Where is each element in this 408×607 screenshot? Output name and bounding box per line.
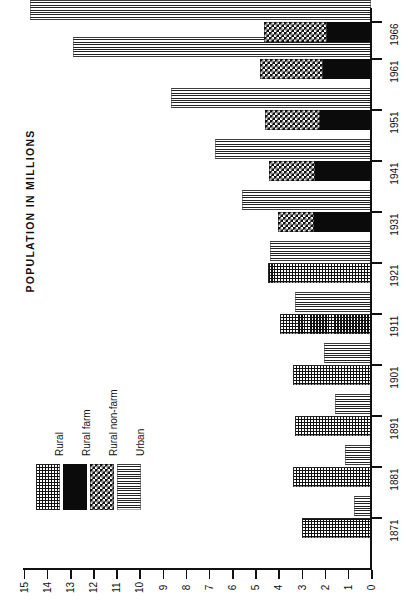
bar-rural-nonfarm-1931 — [278, 212, 314, 232]
bar-rural-farm-1961 — [323, 59, 371, 79]
bar-rural-farm-1931 — [314, 212, 371, 232]
bar-rural-1881 — [293, 467, 371, 487]
value-tick-label-1: 1 — [342, 577, 353, 599]
value-tick-label-0: 0 — [366, 577, 377, 599]
bar-rural-nonfarm-1941 — [269, 161, 315, 181]
category-label-1931: 1931 — [389, 205, 400, 245]
category-tick-1921 — [372, 262, 382, 264]
bar-urban-1951 — [171, 88, 371, 108]
legend-swatch-rural — [36, 464, 60, 510]
category-tick-1961 — [372, 58, 382, 60]
value-tick-label-11: 11 — [111, 577, 122, 599]
value-tick-label-6: 6 — [227, 577, 238, 599]
value-tick-label-7: 7 — [203, 577, 214, 599]
legend-label-rural-farm: Rural farm — [81, 409, 92, 456]
value-axis-line — [23, 568, 372, 570]
category-label-1891: 1891 — [389, 409, 400, 449]
bar-rural-1901 — [293, 365, 371, 385]
bar-rural-farm-1941 — [315, 161, 371, 181]
category-tick-1881 — [372, 466, 382, 468]
bar-rural-1911 — [280, 314, 371, 334]
bar-urban-1931 — [242, 190, 371, 210]
value-tick-label-8: 8 — [180, 577, 191, 599]
category-label-1966: 1966 — [389, 15, 400, 55]
legend: RuralRural farmRural non-farmUrban — [36, 372, 146, 517]
category-label-1961: 1961 — [389, 52, 400, 92]
legend-swatch-urban — [117, 464, 141, 510]
value-tick-label-14: 14 — [41, 577, 52, 599]
legend-swatch-rural-non-farm — [90, 464, 114, 510]
bar-rural-nonfarm-1966 — [264, 22, 327, 42]
value-tick-label-5: 5 — [250, 577, 261, 599]
value-tick-label-10: 10 — [134, 577, 145, 599]
category-axis-line — [370, 8, 372, 569]
bar-rural-nonfarm-1961 — [260, 59, 323, 79]
value-tick-label-2: 2 — [319, 577, 330, 599]
bar-rural-1891 — [295, 416, 371, 436]
category-label-1941: 1941 — [389, 154, 400, 194]
bar-urban-1891 — [335, 394, 371, 414]
value-tick-label-12: 12 — [88, 577, 99, 599]
category-tick-1871 — [372, 517, 382, 519]
category-label-1921: 1921 — [389, 256, 400, 296]
category-tick-1966 — [372, 21, 382, 23]
category-tick-1901 — [372, 364, 382, 366]
category-tick-1911 — [372, 313, 382, 315]
legend-label-rural: Rural — [54, 432, 65, 456]
bar-urban-1911 — [295, 292, 371, 312]
category-label-1901: 1901 — [389, 358, 400, 398]
bar-urban-1966 — [30, 0, 371, 20]
legend-swatch-rural-farm — [63, 464, 87, 510]
category-tick-1941 — [372, 160, 382, 162]
bar-rural-1871 — [302, 518, 371, 538]
bar-urban-1941 — [215, 139, 371, 159]
value-tick-label-13: 13 — [64, 577, 75, 599]
bar-urban-1871 — [354, 496, 371, 516]
category-label-1951: 1951 — [389, 103, 400, 143]
bar-rural-1921 — [268, 263, 371, 283]
category-label-1881: 1881 — [389, 460, 400, 500]
legend-label-urban: Urban — [135, 429, 146, 456]
category-label-1871: 1871 — [389, 511, 400, 551]
category-tick-1891 — [372, 415, 382, 417]
category-tick-1931 — [372, 211, 382, 213]
population-bar-chart: POPULATION IN MILLIONS 01234567891011121… — [0, 0, 408, 607]
bar-urban-1881 — [345, 445, 371, 465]
value-tick-label-15: 15 — [18, 577, 29, 599]
bar-rural-farm-1951 — [320, 110, 371, 130]
category-label-1911: 1911 — [389, 307, 400, 347]
bar-rural-farm-1966 — [327, 22, 371, 42]
bar-urban-1901 — [324, 343, 371, 363]
bar-urban-1921 — [270, 241, 371, 261]
legend-label-rural-non-farm: Rural non-farm — [108, 389, 119, 456]
category-tick-1951 — [372, 109, 382, 111]
value-tick-label-9: 9 — [157, 577, 168, 599]
value-tick-label-3: 3 — [296, 577, 307, 599]
bar-rural-nonfarm-1951 — [265, 110, 320, 130]
value-tick-label-4: 4 — [273, 577, 284, 599]
